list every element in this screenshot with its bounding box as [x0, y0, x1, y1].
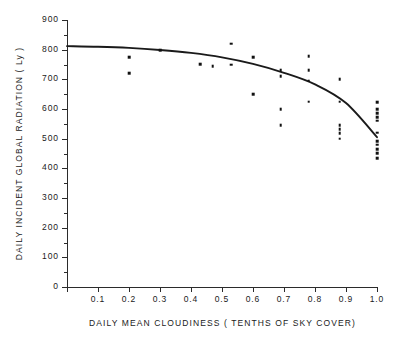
x-tick-label: 0.6	[246, 294, 261, 304]
y-tick-mark	[62, 109, 67, 110]
data-point	[376, 112, 379, 115]
y-tick-label: 0	[53, 281, 59, 291]
y-tick-mark	[62, 257, 67, 258]
data-point	[339, 124, 342, 127]
y-axis-title: DAILY INCIDENT GLOBAL RADIATION ( Ly )	[14, 20, 28, 287]
x-tick-mark	[222, 287, 223, 292]
x-axis-title: DAILY MEAN CLOUDINESS ( TENTHS OF SKY CO…	[67, 318, 378, 328]
data-point	[128, 72, 131, 75]
y-tick-mark	[62, 50, 67, 51]
y-tick-mark	[62, 139, 67, 140]
x-tick-mark	[98, 287, 99, 292]
x-tick-label: 0.9	[339, 294, 354, 304]
data-point	[252, 56, 255, 59]
data-point	[280, 108, 283, 111]
x-tick-mark	[284, 287, 285, 292]
y-tick-label: 700	[42, 73, 59, 83]
data-point	[339, 137, 342, 140]
y-tick-minor	[64, 65, 67, 66]
regression-curve	[67, 20, 377, 287]
data-point	[211, 65, 214, 68]
data-point	[339, 128, 342, 131]
y-tick-label: 200	[42, 222, 59, 232]
y-tick-label: 400	[42, 162, 59, 172]
y-tick-label: 900	[42, 14, 59, 24]
y-tick-minor	[64, 213, 67, 214]
data-point	[159, 49, 162, 52]
y-tick-minor	[64, 124, 67, 125]
x-tick-label: 1.0	[370, 294, 385, 304]
y-tick-mark	[62, 20, 67, 21]
y-tick-mark	[62, 198, 67, 199]
y-tick-label: 300	[42, 192, 59, 202]
data-point	[339, 78, 342, 81]
y-tick-minor	[64, 272, 67, 273]
data-point	[339, 132, 342, 135]
data-point	[376, 108, 379, 111]
y-tick-label: 800	[42, 44, 59, 54]
data-point	[128, 56, 131, 59]
y-tick-mark	[62, 228, 67, 229]
data-point	[280, 69, 283, 72]
y-tick-label: 100	[42, 251, 59, 261]
x-tick-label: 0.5	[215, 294, 230, 304]
x-tick-mark	[191, 287, 192, 292]
x-tick-label: 0.2	[122, 294, 137, 304]
data-point	[308, 80, 311, 83]
data-point	[376, 120, 379, 123]
data-point	[280, 124, 283, 127]
y-tick-minor	[64, 94, 67, 95]
x-tick-mark	[160, 287, 161, 292]
y-tick-label: 500	[42, 133, 59, 143]
x-tick-label: 0.4	[184, 294, 199, 304]
data-point	[376, 148, 379, 151]
data-point	[376, 140, 379, 143]
x-tick-mark	[129, 287, 130, 292]
data-point	[308, 69, 311, 72]
x-tick-label: 0.1	[91, 294, 106, 304]
x-tick-label: 0.3	[153, 294, 168, 304]
x-tick-mark	[377, 287, 378, 292]
y-tick-minor	[64, 35, 67, 36]
x-tick-mark	[346, 287, 347, 292]
data-point	[376, 101, 379, 104]
data-point	[339, 100, 342, 103]
data-point	[376, 152, 379, 155]
y-tick-minor	[64, 183, 67, 184]
data-point	[376, 157, 379, 160]
x-tick-label: 0.7	[277, 294, 292, 304]
data-point	[376, 143, 379, 146]
y-tick-label: 600	[42, 103, 59, 113]
y-tick-minor	[64, 243, 67, 244]
y-tick-mark	[62, 79, 67, 80]
data-point	[230, 42, 233, 45]
data-point	[230, 63, 233, 66]
data-point	[308, 55, 311, 58]
x-tick-label: 0.8	[308, 294, 323, 304]
data-point	[252, 93, 255, 96]
chart-page: 0100200300400500600700800900 0.10.20.30.…	[0, 0, 393, 342]
y-tick-minor	[64, 154, 67, 155]
data-point	[376, 131, 379, 134]
x-tick-mark	[253, 287, 254, 292]
data-point	[199, 63, 202, 66]
data-point	[376, 116, 379, 119]
plot-area	[67, 20, 377, 287]
data-point	[280, 75, 283, 78]
data-point	[308, 100, 311, 103]
x-tick-mark	[315, 287, 316, 292]
y-tick-mark	[62, 168, 67, 169]
x-tick-mark	[67, 287, 68, 292]
